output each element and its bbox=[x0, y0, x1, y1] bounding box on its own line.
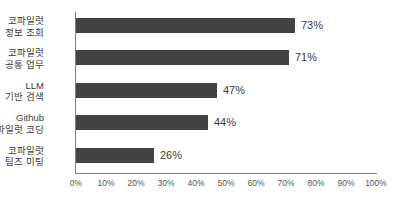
bar bbox=[76, 83, 217, 98]
bar-value-label: 73% bbox=[301, 17, 323, 33]
bar-row: 73%코파일럿정보 조회 bbox=[76, 12, 376, 44]
plot-area: 73%코파일럿정보 조회71%코파일럿공통 업무47%LLM기반 검색44%Gi… bbox=[76, 12, 376, 174]
bar-row: 47%LLM기반 검색 bbox=[76, 77, 376, 109]
category-label-line: 코파일럿 코딩 bbox=[0, 124, 44, 136]
category-label-line: 기반 검색 bbox=[0, 91, 44, 103]
category-label: 코파일럿공통 업무 bbox=[0, 47, 44, 70]
x-axis-tick-label: 100% bbox=[356, 178, 396, 189]
category-label-line: LLM bbox=[0, 80, 44, 92]
bar bbox=[76, 148, 154, 163]
bar-chart: 73%코파일럿정보 조회71%코파일럿공통 업무47%LLM기반 검색44%Gi… bbox=[0, 0, 403, 208]
bar bbox=[76, 18, 295, 33]
bar-row: 71%코파일럿공통 업무 bbox=[76, 44, 376, 76]
bar bbox=[76, 115, 208, 130]
category-label: 코파일럿팀즈 미팅 bbox=[0, 145, 44, 168]
bar bbox=[76, 50, 289, 65]
bar-value-label: 71% bbox=[295, 49, 317, 65]
category-label: Github코파일럿 코딩 bbox=[0, 112, 44, 135]
category-label-line: Github bbox=[0, 112, 44, 124]
category-label-line: 코파일럿 bbox=[0, 145, 44, 157]
bar-value-label: 47% bbox=[223, 82, 245, 98]
category-label: LLM기반 검색 bbox=[0, 80, 44, 103]
category-label: 코파일럿정보 조회 bbox=[0, 15, 44, 38]
category-label-line: 코파일럿 bbox=[0, 15, 44, 27]
category-label-line: 팀즈 미팅 bbox=[0, 156, 44, 168]
bar-row: 26%코파일럿팀즈 미팅 bbox=[76, 142, 376, 174]
category-label-line: 코파일럿 bbox=[0, 47, 44, 59]
bar-value-label: 26% bbox=[160, 147, 182, 163]
bar-row: 44%Github코파일럿 코딩 bbox=[76, 109, 376, 141]
bar-value-label: 44% bbox=[214, 114, 236, 130]
category-label-line: 정보 조회 bbox=[0, 27, 44, 39]
category-label-line: 공통 업무 bbox=[0, 59, 44, 71]
